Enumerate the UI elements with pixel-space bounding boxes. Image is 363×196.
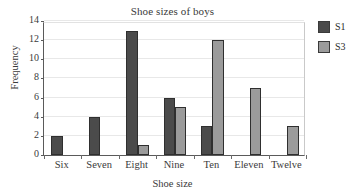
legend-label: S1	[335, 22, 346, 32]
grid-line	[44, 20, 304, 21]
y-tick-mark	[41, 98, 45, 99]
y-tick-label: 10	[29, 52, 39, 63]
legend-swatch-s3	[318, 41, 330, 53]
grid-line	[44, 39, 304, 40]
legend-label: S3	[335, 42, 346, 52]
y-tick-mark	[41, 40, 45, 41]
y-tick-label: 14	[29, 14, 39, 25]
x-category-label: Seven	[80, 159, 117, 170]
y-tick-label: 6	[34, 91, 39, 102]
bar-ten-s3	[212, 40, 223, 155]
grid-line	[44, 77, 304, 78]
x-axis-label: Shoe size	[40, 178, 305, 189]
x-tick-mark	[306, 155, 307, 159]
y-tick-label: 4	[34, 110, 39, 121]
y-tick-label: 2	[34, 129, 39, 140]
x-category-label: Ten	[193, 159, 230, 170]
bar-six-s1	[51, 136, 62, 155]
x-category-label: Six	[43, 159, 80, 170]
grid-line	[44, 58, 304, 59]
bar-eight-s1	[126, 31, 137, 155]
x-category-label: Eight	[118, 159, 155, 170]
chart-title: Shoe sizes of boys	[40, 5, 305, 17]
y-tick-label: 0	[34, 148, 39, 159]
legend-swatch-s1	[318, 21, 330, 33]
legend-item-s3[interactable]: S3	[318, 40, 363, 53]
legend-item-s1[interactable]: S1	[318, 20, 363, 33]
y-tick-label: 8	[34, 71, 39, 82]
x-category-label: Nine	[155, 159, 192, 170]
y-tick-mark	[41, 21, 45, 22]
bar-eight-s3	[138, 145, 149, 155]
chart-legend: S1S3	[318, 20, 363, 60]
bar-nine-s1	[164, 98, 175, 155]
x-category-label: Twelve	[268, 159, 305, 170]
bar-twelve-s3	[287, 126, 298, 155]
bar-eleven-s3	[250, 88, 261, 155]
y-tick-label: 12	[29, 33, 39, 44]
bar-nine-s3	[175, 107, 186, 155]
y-tick-mark	[41, 136, 45, 137]
y-tick-mark	[41, 59, 45, 60]
bar-seven-s1	[89, 117, 100, 155]
plot-area: 02468101214	[43, 22, 305, 156]
y-axis-label: Frequency	[9, 28, 20, 108]
x-category-label: Eleven	[230, 159, 267, 170]
bar-ten-s1	[201, 126, 212, 155]
y-tick-mark	[41, 117, 45, 118]
y-tick-mark	[41, 78, 45, 79]
bar-chart: Shoe sizes of boys Frequency 02468101214…	[0, 0, 363, 196]
